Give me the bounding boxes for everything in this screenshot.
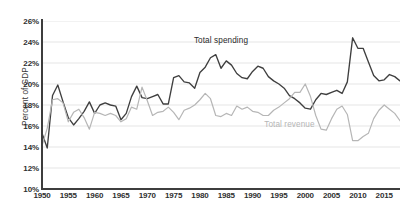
plot-area (42, 21, 400, 189)
series-line-total-spending (42, 38, 400, 148)
y-axis-tick-14: 14% (0, 143, 39, 152)
y-axis-tick-20: 20% (0, 80, 39, 89)
x-axis-tick-2015: 2015 (364, 191, 404, 200)
y-axis-tick-18: 18% (0, 101, 39, 110)
plot-svg (42, 21, 400, 189)
series-label-total-spending: Total spending (194, 36, 248, 45)
y-axis-tick-22: 22% (0, 59, 39, 68)
y-axis-line (41, 19, 43, 190)
y-axis-tick-24: 24% (0, 38, 39, 47)
chart-container: Percent of GDP 10%12%14%16%18%20%22%24%2… (0, 0, 416, 215)
series-line-total-revenue (42, 84, 400, 146)
y-axis-tick-labels: 10%12%14%16%18%20%22%24%26% (0, 0, 39, 215)
series-lines (42, 38, 400, 148)
y-axis-tick-26: 26% (0, 17, 39, 26)
y-axis-tick-16: 16% (0, 122, 39, 131)
x-axis-tick-labels: 1950195519601965197019751980198519901995… (0, 191, 416, 207)
x-axis-line (41, 188, 400, 190)
y-axis-tick-12: 12% (0, 164, 39, 173)
gridlines (42, 21, 400, 189)
series-label-total-revenue: Total revenue (264, 120, 314, 129)
